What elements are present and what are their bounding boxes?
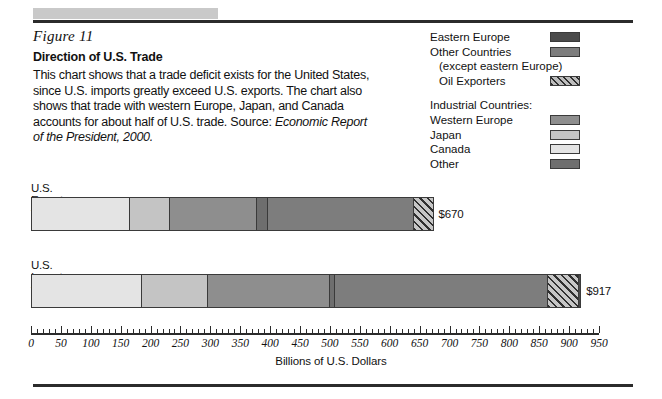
- x-tick-major: [270, 326, 271, 333]
- x-tick-major: [539, 326, 540, 333]
- x-tick-minor: [103, 329, 104, 333]
- legend-label: Other Countries: [430, 45, 511, 60]
- x-tick-major: [360, 326, 361, 333]
- x-tick-minor: [503, 329, 504, 333]
- x-tick-minor: [294, 329, 295, 333]
- legend-item-canada: Canada: [430, 142, 630, 157]
- x-tick-minor: [318, 329, 319, 333]
- bar-segment-western-europe: [208, 275, 330, 307]
- x-tick-minor: [234, 329, 235, 333]
- x-tick-major: [91, 326, 92, 333]
- x-tick-minor: [384, 329, 385, 333]
- legend-item-other-industrial: Other: [430, 157, 630, 172]
- x-tick-minor: [432, 329, 433, 333]
- x-tick-minor: [85, 329, 86, 333]
- x-tick-minor: [246, 329, 247, 333]
- bar-segment-other-countries: [335, 275, 548, 307]
- legend-item-western-europe: Western Europe: [430, 113, 630, 128]
- x-tick-label: 600: [381, 337, 398, 349]
- bottom-rule: [33, 384, 633, 387]
- x-tick-minor: [396, 329, 397, 333]
- bar-segment-eastern-europe: [579, 275, 581, 307]
- legend-note-except-eastern-europe: (except eastern Europe): [430, 59, 630, 74]
- x-axis-title: Billions of U.S. Dollars: [0, 355, 662, 367]
- legend-label: Eastern Europe: [430, 30, 510, 45]
- legend-swatch-canada: [550, 144, 580, 154]
- x-tick-minor: [366, 329, 367, 333]
- x-tick-minor: [115, 329, 116, 333]
- legend-swatch-western-europe: [550, 115, 580, 125]
- x-tick-minor: [593, 329, 594, 333]
- x-tick-minor: [73, 329, 74, 333]
- figure-page: Figure 11 Direction of U.S. Trade This c…: [0, 0, 662, 399]
- x-tick-minor: [342, 329, 343, 333]
- bar-segment-oil-exporters: [548, 275, 578, 307]
- x-tick-minor: [139, 329, 140, 333]
- x-tick-minor: [581, 329, 582, 333]
- legend-swatch-eastern-europe: [550, 32, 580, 42]
- x-tick-major: [420, 326, 421, 333]
- x-tick-minor: [563, 329, 564, 333]
- x-tick-minor: [461, 329, 462, 333]
- x-tick-minor: [372, 329, 373, 333]
- bar-value-imports: $917: [586, 285, 611, 297]
- x-tick-label: 250: [172, 337, 189, 349]
- x-tick-major: [121, 326, 122, 333]
- x-tick-minor: [306, 329, 307, 333]
- x-tick-minor: [521, 329, 522, 333]
- x-tick-label: 150: [112, 337, 129, 349]
- x-tick-minor: [467, 329, 468, 333]
- x-tick-minor: [133, 329, 134, 333]
- x-tick-minor: [402, 329, 403, 333]
- legend-item-other-countries: Other Countries: [430, 45, 630, 60]
- x-tick-label: 350: [232, 337, 249, 349]
- x-tick-minor: [186, 329, 187, 333]
- bar-segment-other-countries: [268, 198, 414, 230]
- x-tick-label: 0: [28, 337, 34, 349]
- x-tick-minor: [55, 329, 56, 333]
- x-tick-label: 300: [202, 337, 219, 349]
- bar-segment-oil-exporters: [414, 198, 432, 230]
- x-tick-minor: [444, 329, 445, 333]
- x-tick-minor: [79, 329, 80, 333]
- x-tick-major: [31, 326, 32, 333]
- x-tick-minor: [49, 329, 50, 333]
- legend-swatch-other-industrial: [550, 159, 580, 169]
- bar-segment-japan: [142, 275, 209, 307]
- x-tick-label: 100: [82, 337, 99, 349]
- x-tick-minor: [109, 329, 110, 333]
- legend-label: Industrial Countries:: [430, 98, 532, 113]
- x-tick-label: 200: [142, 337, 159, 349]
- x-tick-minor: [37, 329, 38, 333]
- x-tick-minor: [515, 329, 516, 333]
- x-tick-minor: [145, 329, 146, 333]
- x-tick-minor: [198, 329, 199, 333]
- x-tick-label: 900: [560, 337, 577, 349]
- figure-title: Direction of U.S. Trade: [33, 50, 162, 64]
- x-tick-major: [390, 326, 391, 333]
- x-tick-minor: [497, 329, 498, 333]
- x-tick-minor: [324, 329, 325, 333]
- x-tick-label: 550: [351, 337, 368, 349]
- legend-swatch-oil-exporters: [550, 76, 580, 86]
- x-tick-minor: [336, 329, 337, 333]
- bar-segment-western-europe: [170, 198, 257, 230]
- x-tick-label: 850: [531, 337, 548, 349]
- legend-swatch-other-countries: [550, 47, 580, 57]
- x-tick-minor: [174, 329, 175, 333]
- x-tick-minor: [354, 329, 355, 333]
- figure-description: This chart shows that a trade deficit ex…: [33, 68, 378, 146]
- x-tick-major: [240, 326, 241, 333]
- x-tick-major: [450, 326, 451, 333]
- x-tick-minor: [192, 329, 193, 333]
- x-tick-label: 650: [411, 337, 428, 349]
- x-tick-minor: [258, 329, 259, 333]
- x-tick-minor: [276, 329, 277, 333]
- x-tick-minor: [157, 329, 158, 333]
- x-tick-minor: [288, 329, 289, 333]
- x-tick-label: 750: [471, 337, 488, 349]
- x-tick-major: [300, 326, 301, 333]
- x-tick-minor: [216, 329, 217, 333]
- x-tick-label: 700: [441, 337, 458, 349]
- x-tick-minor: [533, 329, 534, 333]
